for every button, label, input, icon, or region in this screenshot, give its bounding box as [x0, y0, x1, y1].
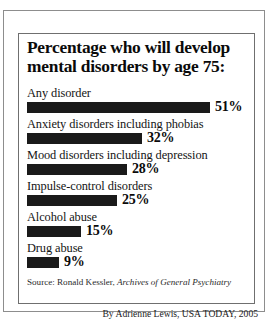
bar-value-label: 28%: [132, 161, 159, 176]
bar-track: 28%: [27, 163, 251, 177]
bar: [27, 257, 59, 268]
bar-row: Impulse-control disorders25%: [27, 179, 251, 210]
bar-value-label: 32%: [147, 130, 174, 145]
bar-track: 15%: [27, 225, 251, 239]
bar: [27, 102, 210, 113]
bar-row-label: Alcohol abuse: [27, 210, 251, 224]
chart-title-line-1: Percentage who will develop: [27, 37, 230, 57]
bar-row-label: Mood disorders including depression: [27, 148, 251, 162]
bar-value-label: 15%: [86, 223, 113, 238]
source-journal: Archives of General Psychiatry: [117, 277, 231, 287]
bar-row-label: Drug abuse: [27, 241, 251, 255]
byline: By Adrienne Lewis, USA TODAY, 2005: [7, 308, 266, 319]
bar-row: Anxiety disorders including phobias32%: [27, 117, 251, 148]
bar-value-label: 51%: [215, 99, 242, 114]
bar: [27, 133, 142, 144]
bar: [27, 195, 117, 206]
outer-frame: Percentage who will develop mental disor…: [3, 10, 265, 312]
chart-title-line-2: mental disorders by age 75:: [27, 56, 225, 76]
infographic-page: Percentage who will develop mental disor…: [0, 0, 269, 319]
bar-track: 25%: [27, 194, 251, 208]
bar-rows: Any disorder51%Anxiety disorders includi…: [27, 86, 251, 272]
bar: [27, 226, 81, 237]
source-prefix: Source: Ronald Kessler,: [27, 277, 115, 287]
bar-value-label: 9%: [64, 254, 85, 269]
bar: [27, 164, 127, 175]
bar-value-label: 25%: [122, 192, 149, 207]
bar-row: Alcohol abuse15%: [27, 210, 251, 241]
bar-row: Mood disorders including depression28%: [27, 148, 251, 179]
bar-row: Drug abuse9%: [27, 241, 251, 272]
chart-title: Percentage who will develop mental disor…: [27, 38, 249, 75]
bar-track: 32%: [27, 132, 251, 146]
chart-container: Percentage who will develop mental disor…: [18, 33, 255, 304]
bar-row-label: Anxiety disorders including phobias: [27, 117, 251, 131]
bar-row-label: Any disorder: [27, 86, 251, 100]
bar-track: 51%: [27, 101, 251, 115]
bar-row-label: Impulse-control disorders: [27, 179, 251, 193]
source-note: Source: Ronald Kessler, Archives of Gene…: [27, 277, 237, 287]
bar-row: Any disorder51%: [27, 86, 251, 117]
bar-track: 9%: [27, 256, 251, 270]
